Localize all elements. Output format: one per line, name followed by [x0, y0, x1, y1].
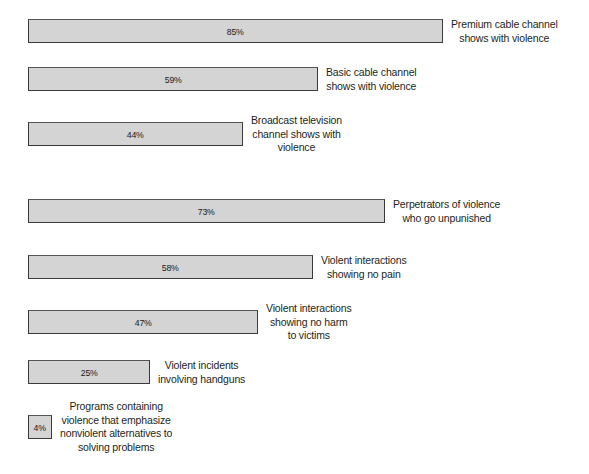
bar-category-label-line: Perpetrators of violence	[393, 198, 500, 212]
bar-category-label: Violent interactionsshowing no harmto vi…	[266, 302, 352, 343]
bar-value-label: 85%	[227, 26, 244, 37]
bar-value-label: 25%	[81, 367, 98, 378]
bar-row: 25%Violent incidentsinvolving handguns	[0, 360, 589, 384]
bar-category-label-line: Premium cable channel	[451, 18, 558, 32]
bar: 59%	[28, 67, 318, 91]
bar-value-label: 73%	[198, 206, 215, 217]
bar-value-label: 58%	[162, 262, 179, 273]
bar-category-label-line: showing no harm	[266, 315, 352, 329]
bar-row: 85%Premium cable channelshows with viole…	[0, 19, 589, 43]
bar: 47%	[28, 310, 258, 334]
bar-category-label: Violent incidentsinvolving handguns	[158, 359, 245, 386]
bar-row: 58%Violent interactionsshowing no pain	[0, 255, 589, 279]
bar-category-label-line: nonviolent alternatives to	[60, 427, 172, 441]
bar-category-label: Violent interactionsshowing no pain	[321, 254, 407, 281]
bar-category-label-line: involving handguns	[158, 372, 245, 386]
bar-category-label: Premium cable channelshows with violence	[451, 18, 558, 45]
bar-category-label-line: Violent interactions	[321, 254, 407, 268]
bar: 85%	[28, 19, 443, 43]
bar-category-label-line: Basic cable channel	[326, 66, 417, 80]
bar: 58%	[28, 255, 313, 279]
bar-category-label-line: Broadcast television	[251, 114, 342, 128]
horizontal-bar-chart: 85%Premium cable channelshows with viole…	[0, 0, 589, 474]
bar-category-label: Perpetrators of violencewho go unpunishe…	[393, 198, 500, 225]
bar-category-label-line: violence that emphasize	[60, 414, 172, 428]
bar-category-label-line: shows with violence	[326, 79, 417, 93]
bar: 73%	[28, 199, 385, 223]
bar-value-label: 44%	[127, 129, 144, 140]
bar-category-label-line: solving problems	[60, 441, 172, 455]
bar: 4%	[28, 415, 52, 439]
bar-value-label: 4%	[34, 422, 46, 433]
bar-row: 73%Perpetrators of violencewho go unpuni…	[0, 199, 589, 223]
bar-category-label-line: shows with violence	[451, 31, 558, 45]
bar-category-label-line: who go unpunished	[393, 211, 500, 225]
bar: 44%	[28, 122, 243, 146]
bar-category-label-line: Violent incidents	[158, 359, 245, 373]
bar-row: 4%Programs containingviolence that empha…	[0, 415, 589, 439]
bar-row: 47%Violent interactionsshowing no harmto…	[0, 310, 589, 334]
bar-category-label: Broadcast televisionchannel shows withvi…	[251, 114, 342, 155]
bar-category-label-line: showing no pain	[321, 267, 407, 281]
bar-category-label-line: channel shows with	[251, 127, 342, 141]
bar-category-label: Basic cable channelshows with violence	[326, 66, 417, 93]
bar-category-label-line: to victims	[266, 329, 352, 343]
bar-category-label: Programs containingviolence that emphasi…	[60, 400, 172, 454]
bar-value-label: 47%	[135, 317, 152, 328]
bar: 25%	[28, 360, 150, 384]
bar-category-label-line: Violent interactions	[266, 302, 352, 316]
bar-value-label: 59%	[165, 74, 182, 85]
bar-category-label-line: violence	[251, 141, 342, 155]
bar-row: 59%Basic cable channelshows with violenc…	[0, 67, 589, 91]
bar-row: 44%Broadcast televisionchannel shows wit…	[0, 122, 589, 146]
bar-category-label-line: Programs containing	[60, 400, 172, 414]
